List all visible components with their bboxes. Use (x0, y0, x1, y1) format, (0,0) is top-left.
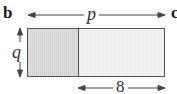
rectangle-right-section (79, 29, 164, 76)
right-section-label-8: 8 (113, 78, 128, 94)
width-label-p: p (84, 4, 99, 24)
rectangle-left-section (28, 29, 79, 76)
height-label-q: q (12, 42, 21, 62)
rectangle (27, 28, 165, 77)
